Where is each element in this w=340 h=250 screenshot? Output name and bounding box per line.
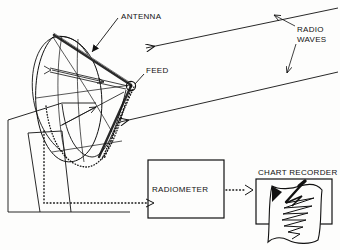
antenna-leader-line — [92, 18, 118, 52]
chart-recorder-label: CHART RECORDER — [258, 168, 337, 177]
feed-leader-line — [135, 74, 144, 84]
antenna-pedestal — [28, 131, 71, 212]
chart-recorder — [256, 179, 332, 243]
radio-waves-label-line2: WAVES — [297, 35, 327, 44]
dish-reflector-rim — [36, 36, 102, 162]
feed-label: FEED — [146, 66, 169, 75]
dish-back-rim — [32, 36, 88, 152]
radiometer-label: RADIOMETER — [152, 185, 208, 194]
radio-wave-ray-2 — [120, 72, 338, 122]
signal-path-arrow-radiometer — [146, 199, 154, 207]
signal-path-arrow-chart-recorder — [245, 185, 253, 195]
diagram-canvas: ANTENNA FEED RADIO WAVES RADIOMETER CHAR… — [0, 0, 340, 250]
ray-direction-chevron — [44, 66, 51, 74]
radio-waves-label-line1: RADIO — [297, 25, 324, 34]
reflected-ray-arrow — [52, 70, 104, 82]
radio-telescope-diagram — [0, 0, 340, 250]
dish-parabola-section — [62, 90, 126, 157]
radio-waves-leader-lines — [274, 15, 296, 73]
antenna-label: ANTENNA — [121, 12, 161, 21]
reflected-ray-3-arrow — [62, 107, 96, 125]
